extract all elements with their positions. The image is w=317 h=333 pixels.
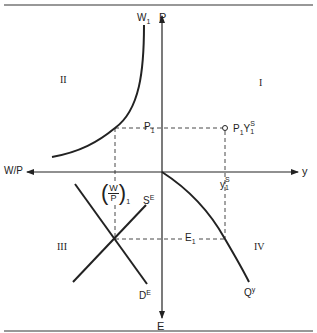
e1-base: E <box>185 232 192 243</box>
qy-base: Q <box>244 287 252 298</box>
qy-label: Qy <box>244 288 255 298</box>
axis-label-y: y <box>302 166 308 177</box>
qy-sup: y <box>252 286 256 293</box>
p1ys1-point <box>223 126 228 131</box>
se-base: S <box>143 195 150 206</box>
se-label: SE <box>143 196 154 206</box>
axis-label-e: E <box>157 321 164 332</box>
wp1-label: (WP)1 <box>101 182 130 204</box>
ys1-sub: 1 <box>225 184 230 192</box>
p1ys1-b-sup: S <box>250 120 255 128</box>
qy-curve <box>162 172 249 282</box>
e1-sub: 1 <box>192 238 196 245</box>
quadrant-label-i: I <box>259 78 262 88</box>
w1-sub: 1 <box>146 18 150 25</box>
axis-label-wp: W/P <box>4 166 23 176</box>
w1-label: W1 <box>137 13 150 23</box>
p1-sub: 1 <box>151 127 155 134</box>
p1ys1-b: Y <box>244 123 251 134</box>
p1-base: P <box>144 121 151 132</box>
p1ys1-a-sub: 1 <box>240 129 244 136</box>
p1-label: P1 <box>144 122 155 132</box>
axis-label-p: P <box>159 12 166 23</box>
wp1-lparen: ( <box>101 180 108 205</box>
de-sup: E <box>146 289 151 296</box>
quadrant-label-iv: IV <box>254 242 265 252</box>
wp1-den: P <box>111 194 117 203</box>
guide-lines <box>115 128 225 239</box>
w1-curve <box>52 25 144 157</box>
p1ys1-a: P <box>233 123 240 134</box>
de-label: DE <box>139 291 151 301</box>
wp1-sub: 1 <box>126 198 130 205</box>
quadrant-label-iii: III <box>57 242 67 252</box>
e1-label: E1 <box>184 233 197 243</box>
quadrant-label-ii: II <box>60 75 67 85</box>
four-quadrant-diagram <box>0 0 317 333</box>
ys1-sup: S <box>225 176 230 184</box>
se-sup: E <box>150 194 155 201</box>
ys1-label: yS1 <box>220 177 230 193</box>
se-curve <box>73 205 146 282</box>
p1ys1-label: P1YS1 <box>233 121 255 137</box>
p1ys1-b-sub: 1 <box>250 128 255 136</box>
wp1-num: W <box>108 184 119 194</box>
